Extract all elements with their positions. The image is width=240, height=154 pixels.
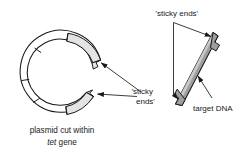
caption-gene-suffix: gene (56, 138, 77, 147)
target-dna-fragment (174, 33, 220, 106)
sticky-ends-top-label: 'sticky ends' (156, 9, 199, 18)
cut-plasmid-ring (20, 30, 100, 114)
arrow-to-target-dna (198, 76, 212, 98)
arrow-to-dna-sticky-end (174, 23, 212, 37)
caption-line-2: tet gene (47, 138, 77, 147)
sticky-ends-mid-label-line1: 'sticky (132, 87, 154, 96)
diagram-canvas: 'sticky ends' 'sticky ends' target DNA p… (0, 0, 240, 154)
target-dna-label: target DNA (193, 104, 233, 113)
caption-line-1: plasmid cut within (30, 126, 95, 135)
biology-diagram-figure: 'sticky ends' 'sticky ends' target DNA p… (0, 0, 240, 154)
leader-lines-group (98, 23, 213, 100)
sticky-ends-mid-label-line2: ends' (136, 97, 155, 106)
